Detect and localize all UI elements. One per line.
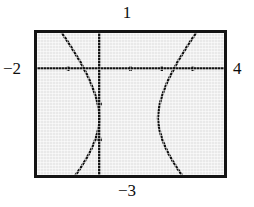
window-xmax-label: 4 bbox=[233, 60, 242, 77]
window-ymax-label: 1 bbox=[0, 4, 254, 21]
calculator-screen bbox=[34, 30, 227, 178]
graph-figure: 1 −2 4 −3 bbox=[0, 0, 254, 207]
window-xmin-label: −2 bbox=[3, 60, 21, 77]
curve-right-branch bbox=[158, 33, 196, 175]
curves bbox=[62, 33, 196, 175]
window-ymin-label: −3 bbox=[0, 182, 254, 199]
axes bbox=[37, 33, 224, 175]
plot-area bbox=[37, 33, 224, 175]
curve-left-branch bbox=[62, 33, 100, 175]
